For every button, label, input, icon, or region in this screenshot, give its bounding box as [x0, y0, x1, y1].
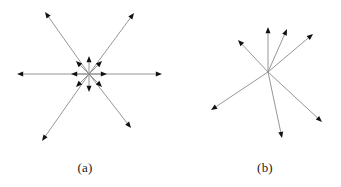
vector-diagram-canvas: (a) (b)	[0, 0, 341, 187]
panel-b-caption: (b)	[257, 160, 273, 175]
panel-a-caption: (a)	[77, 160, 92, 175]
figure-root: (a) (b)	[0, 0, 341, 187]
canvas-background	[0, 0, 341, 187]
